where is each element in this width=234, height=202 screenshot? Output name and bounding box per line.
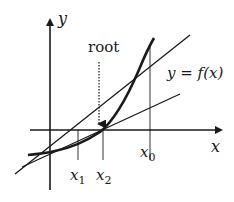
y-axis-label: y bbox=[57, 9, 68, 28]
root-label: root bbox=[88, 38, 119, 56]
x1-label: x1 bbox=[70, 166, 85, 187]
x2-label: x2 bbox=[96, 166, 111, 187]
curve-label: y = f(x) bbox=[166, 64, 223, 82]
x-axis-label: x bbox=[211, 137, 220, 156]
x0-label: x0 bbox=[140, 143, 155, 164]
newton-method-diagram: y x root y = f(x) x0 x1 x2 bbox=[0, 0, 234, 202]
